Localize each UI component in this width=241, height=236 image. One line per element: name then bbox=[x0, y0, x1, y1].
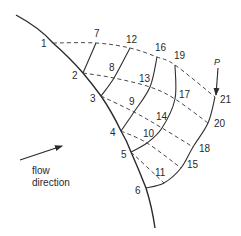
node-label-16: 16 bbox=[155, 42, 167, 53]
node-label-4: 4 bbox=[110, 127, 116, 138]
solid-characteristic-1 bbox=[83, 43, 96, 73]
flow-label-line1: flow bbox=[32, 165, 51, 176]
node-label-2: 2 bbox=[72, 70, 78, 81]
node-label-9: 9 bbox=[129, 96, 135, 107]
node-label-1: 1 bbox=[41, 38, 47, 49]
node-label-15: 15 bbox=[187, 159, 199, 170]
solid-characteristic-2 bbox=[101, 48, 130, 96]
point-p-arrow bbox=[216, 68, 218, 95]
node-label-8: 8 bbox=[109, 62, 115, 73]
node-label-12: 12 bbox=[126, 34, 138, 45]
node-label-10: 10 bbox=[143, 128, 155, 139]
diagram-svg: 123456789101112131415161718192021 P flow… bbox=[0, 0, 241, 236]
node-label-5: 5 bbox=[121, 149, 127, 160]
node-label-19: 19 bbox=[174, 50, 186, 61]
node-label-14: 14 bbox=[156, 111, 168, 122]
node-label-11: 11 bbox=[155, 167, 166, 178]
node-label-21: 21 bbox=[220, 94, 232, 105]
node-label-20: 20 bbox=[214, 118, 226, 129]
dashed-characteristic-3 bbox=[101, 96, 193, 147]
flow-direction-arrow bbox=[20, 146, 62, 160]
node-label-3: 3 bbox=[90, 93, 96, 104]
solid-characteristic-3 bbox=[121, 57, 157, 131]
point-p-label: P bbox=[214, 57, 220, 67]
node-labels: 123456789101112131415161718192021 bbox=[41, 28, 232, 196]
wall-curve bbox=[16, 15, 155, 228]
node-label-6: 6 bbox=[135, 185, 141, 196]
node-label-13: 13 bbox=[139, 73, 151, 84]
node-label-7: 7 bbox=[94, 28, 100, 39]
characteristic-mesh-diagram: 123456789101112131415161718192021 P flow… bbox=[0, 0, 241, 236]
node-label-18: 18 bbox=[199, 143, 211, 154]
node-label-17: 17 bbox=[179, 89, 191, 100]
flow-label-line2: direction bbox=[32, 177, 70, 188]
